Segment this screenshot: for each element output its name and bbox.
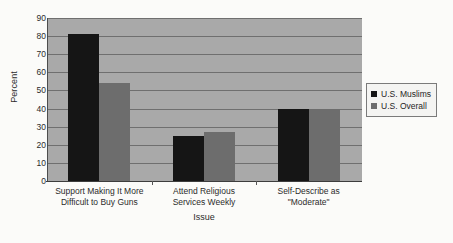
x-tick-mark: [152, 181, 153, 185]
x-category-label-line: Attend Religious: [173, 186, 235, 196]
bars-layer: [47, 18, 361, 181]
x-category-label-line: Difficult to Buy Guns: [47, 197, 152, 208]
bar: [68, 34, 99, 181]
bar: [204, 132, 235, 181]
bar: [278, 109, 309, 181]
x-category-label-line: Support Making It More: [55, 186, 143, 196]
y-tick-label: 70: [26, 50, 46, 58]
legend-swatch-icon: [371, 103, 377, 109]
bar: [309, 109, 340, 181]
x-axis-title: Issue: [47, 212, 361, 222]
x-category-label: Support Making It More Difficult to Buy …: [47, 186, 152, 207]
bar-chart: Percent 9080706050403020100 Support Maki…: [0, 0, 453, 243]
x-tick-mark: [256, 181, 257, 185]
y-tick-label: 60: [26, 68, 46, 76]
legend-swatch-icon: [371, 91, 377, 97]
bar: [99, 83, 130, 181]
y-tick-label: 20: [26, 141, 46, 149]
bar: [173, 136, 204, 181]
y-tick-label: 40: [26, 105, 46, 113]
legend-item: U.S. Muslims: [371, 88, 431, 100]
y-tick-label: 90: [26, 14, 46, 22]
y-tick-label: 0: [26, 177, 46, 185]
y-tick-label: 50: [26, 86, 46, 94]
legend-label: U.S. Overall: [381, 101, 427, 111]
y-axis-ticks: 9080706050403020100: [26, 18, 46, 181]
y-tick-label: 80: [26, 32, 46, 40]
chart-legend: U.S. MuslimsU.S. Overall: [366, 83, 437, 117]
y-tick-label: 30: [26, 123, 46, 131]
x-category-label: Attend Religious Services Weekly: [152, 186, 257, 207]
y-axis-title: Percent: [9, 52, 19, 122]
x-category-label-line: Self-Describe as: [277, 186, 339, 196]
x-category-label-line: "Moderate": [256, 197, 361, 208]
x-category-label: Self-Describe as "Moderate": [256, 186, 361, 207]
legend-label: U.S. Muslims: [381, 89, 431, 99]
y-tick-label: 10: [26, 159, 46, 167]
x-category-label-line: Services Weekly: [152, 197, 257, 208]
x-axis-line: [46, 181, 362, 182]
legend-item: U.S. Overall: [371, 100, 431, 112]
